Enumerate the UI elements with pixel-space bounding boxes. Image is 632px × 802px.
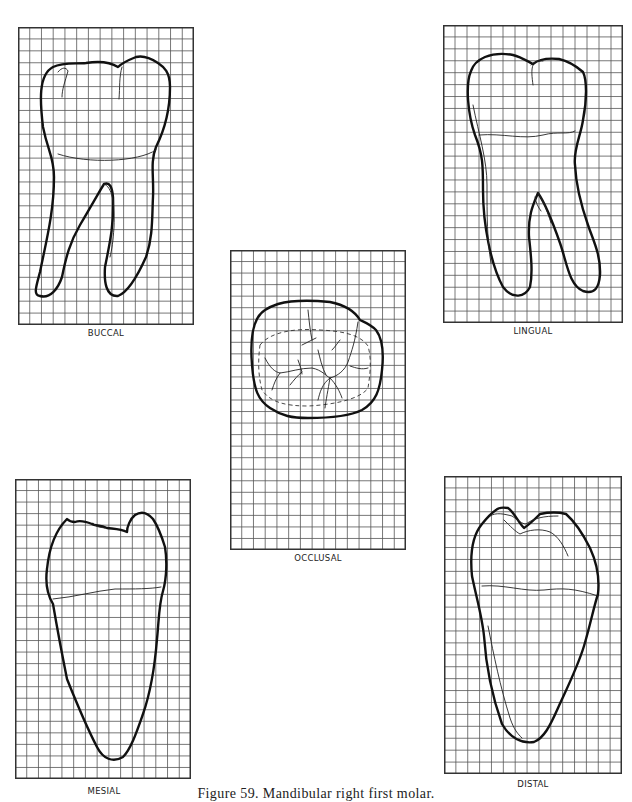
label-occlusal: OCCLUSAL [268,553,368,563]
label-lingual: LINGUAL [483,326,583,336]
tooth-outline-occlusal [230,250,406,550]
tooth-outline-mesial [15,479,191,779]
panel-distal [444,476,622,774]
panel-occlusal [230,250,406,550]
tooth-outline-buccal [18,27,194,325]
label-buccal: BUCCAL [56,328,156,338]
tooth-outline-lingual [443,25,623,323]
panel-buccal [18,27,194,325]
figure-caption: Figure 59. Mandibular right first molar. [0,786,632,802]
panel-lingual [443,25,623,323]
tooth-outline-distal [444,476,622,774]
panel-mesial [15,479,191,779]
